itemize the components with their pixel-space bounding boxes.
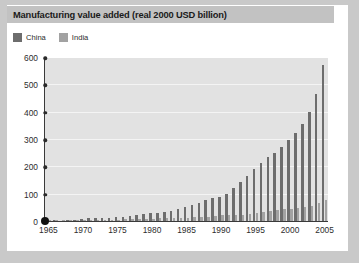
x-tick-label: 1980 xyxy=(143,225,162,235)
bar-series-container xyxy=(45,58,328,222)
x-axis-line xyxy=(45,221,328,222)
y-tick-label: 600 xyxy=(8,53,38,63)
bar-china-2005 xyxy=(322,65,325,222)
x-tick-label: 2005 xyxy=(315,225,334,235)
x-tick-label: 1985 xyxy=(177,225,196,235)
x-tick-label: 1965 xyxy=(39,225,58,235)
bar-india-2003 xyxy=(311,206,314,222)
x-tick-label: 2000 xyxy=(281,225,300,235)
x-tick-label: 1970 xyxy=(74,225,93,235)
y-tick-label: 200 xyxy=(8,162,38,172)
y-tick-mark xyxy=(43,166,47,170)
y-tick-mark xyxy=(43,84,47,88)
x-tick-label: 1995 xyxy=(246,225,265,235)
y-tick-label: 100 xyxy=(8,190,38,200)
bar-india-2002 xyxy=(304,207,307,222)
origin-marker xyxy=(41,217,49,225)
y-tick-mark xyxy=(43,111,47,115)
bar-india-2000 xyxy=(290,209,293,222)
y-tick-mark xyxy=(43,193,47,197)
y-tick-label: 300 xyxy=(8,135,38,145)
y-tick-label: 400 xyxy=(8,108,38,118)
x-tick-label: 1975 xyxy=(108,225,127,235)
bar-india-2004 xyxy=(318,203,321,222)
y-tick-label: 0 xyxy=(8,217,38,227)
figure-frame: Manufacturing value added (real 2000 USD… xyxy=(0,0,359,263)
bar-india-2001 xyxy=(297,208,300,222)
plot-area xyxy=(45,58,328,222)
y-tick-mark xyxy=(43,138,47,142)
x-tick-label: 1990 xyxy=(212,225,231,235)
plot-wrapper: 0100200300400500600 19651970197519801985… xyxy=(0,0,341,246)
y-tick-mark xyxy=(43,56,47,60)
bar-india-2005 xyxy=(325,200,328,222)
y-tick-label: 500 xyxy=(8,80,38,90)
